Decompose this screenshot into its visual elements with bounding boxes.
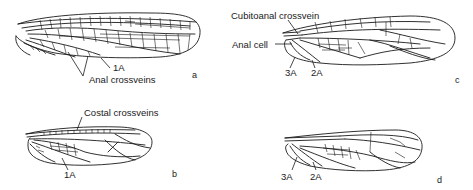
label-2a-wing-d: 2A xyxy=(310,172,322,182)
label-costal-crossveins: Costal crossveins xyxy=(84,108,158,118)
panel-letter-b: b xyxy=(172,170,177,179)
label-3a-wing-d: 3A xyxy=(281,172,293,182)
label-3a-wing-c: 3A xyxy=(285,68,297,78)
wing-venation-figure: 1A Anal crossveins a Cubitoanal crossvei… xyxy=(0,0,473,190)
label-anal-cell: Anal cell xyxy=(232,40,268,50)
wing-d-drawing xyxy=(0,0,473,190)
label-1a-wing-a: 1A xyxy=(113,63,125,73)
label-anal-crossveins: Anal crossveins xyxy=(89,75,156,85)
panel-letter-a: a xyxy=(192,71,197,80)
panel-letter-d: d xyxy=(437,176,442,185)
label-1a-wing-b: 1A xyxy=(64,170,76,180)
label-cubitoanal-crossvein: Cubitoanal crossvein xyxy=(231,11,319,21)
label-2a-wing-c: 2A xyxy=(311,68,323,78)
panel-letter-c: c xyxy=(455,76,460,85)
